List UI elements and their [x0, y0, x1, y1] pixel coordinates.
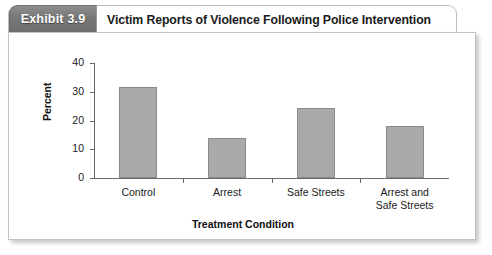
- x-tick-mark: [272, 179, 273, 183]
- bar: [119, 87, 157, 178]
- y-axis-title: Percent: [41, 82, 53, 121]
- x-tick-label: Control: [94, 186, 183, 199]
- y-tick-label: 0: [58, 171, 84, 183]
- y-tick-label: 30: [58, 85, 84, 97]
- bar-chart: Percent 010203040 ControlArrestSafe Stre…: [9, 33, 477, 241]
- exhibit-number-badge: Exhibit 3.9: [9, 5, 97, 33]
- bar: [386, 126, 424, 178]
- x-tick-label: Arrest and Safe Streets: [360, 186, 449, 211]
- y-tick-mark: [90, 121, 94, 122]
- y-tick-mark: [90, 178, 94, 179]
- x-tick-label: Safe Streets: [272, 186, 361, 199]
- exhibit-header: Exhibit 3.9 Victim Reports of Violence F…: [8, 5, 457, 33]
- y-tick-mark: [90, 92, 94, 93]
- y-tick-mark: [90, 149, 94, 150]
- bar: [208, 138, 246, 178]
- exhibit-title: Victim Reports of Violence Following Pol…: [107, 6, 431, 34]
- y-tick-mark: [90, 63, 94, 64]
- exhibit-card: Exhibit 3.9 Victim Reports of Violence F…: [0, 0, 492, 255]
- chart-panel: Percent 010203040 ControlArrestSafe Stre…: [8, 32, 476, 240]
- bar: [297, 108, 335, 178]
- y-axis-line: [94, 63, 95, 179]
- y-tick-label: 10: [58, 142, 84, 154]
- exhibit-number-label: Exhibit 3.9: [21, 12, 86, 26]
- x-tick-mark: [360, 179, 361, 183]
- x-tick-mark: [183, 179, 184, 183]
- x-axis-title: Treatment Condition: [9, 218, 477, 230]
- y-tick-label: 40: [58, 56, 84, 68]
- x-tick-label: Arrest: [183, 186, 272, 199]
- y-tick-label: 20: [58, 114, 84, 126]
